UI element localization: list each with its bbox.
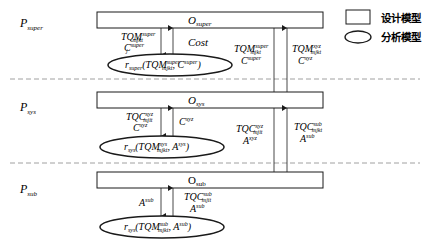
legend-analysis-model-label: 分析模型 <box>381 31 422 43</box>
inter-label-sub-sys-up-l2: Asub <box>299 133 314 144</box>
multilevel-model-diagram: Psuper Osuper TQMsupermjkt Csuperj Cost … <box>0 0 431 251</box>
inter-label-sys-sub-down-l1: TQCxyzmjit <box>236 123 264 135</box>
level-sub: Psub Osub Asub TQCsubmjit Asub rsys(TQMs… <box>19 172 323 238</box>
inter-label-super-sys-down-l1: TQMsupermjkt <box>234 43 269 55</box>
up-label-sub-l1: TQCsubmjit <box>184 191 212 203</box>
down-label-sys-l2: Cxyz <box>133 122 148 133</box>
inter-label-sys-sub-down-l2: Axyz <box>242 135 257 146</box>
down-label-super-l2: Csuperj <box>124 42 145 54</box>
level-label-super: Psuper <box>19 16 43 32</box>
up-label-sys: Cxyz <box>179 116 194 127</box>
up-label-sub-l2: Asub <box>189 203 204 214</box>
level-label-sys: Psys <box>19 100 36 116</box>
up-label-super: Cost <box>188 36 209 48</box>
inter-label-sys-super-up-l1: TQMxyzmjkt <box>292 43 321 55</box>
level-label-sub: Psub <box>19 182 38 198</box>
down-label-sub: Asub <box>138 197 153 208</box>
legend-ellipse-icon <box>345 31 371 43</box>
level-sys: Psys Osys TQCxyzmjit Cxyz Cxyz rsys(TQMs… <box>19 92 323 158</box>
legend: 设计模型 分析模型 <box>345 10 422 43</box>
design-model-box-sub[interactable] <box>97 172 323 188</box>
level-super: Psuper Osuper TQMsupermjkt Csuperj Cost … <box>19 12 323 76</box>
legend-rect-icon <box>346 10 370 24</box>
inter-label-sys-super-up-l2: Cxyz <box>298 55 313 66</box>
inter-label-sub-sys-up-l1: TQCsubmjkt <box>294 121 322 133</box>
inter-label-super-sys-down-l2: Csuper <box>241 55 262 66</box>
design-model-box-sys[interactable] <box>97 92 323 108</box>
legend-design-model-label: 设计模型 <box>381 12 422 24</box>
